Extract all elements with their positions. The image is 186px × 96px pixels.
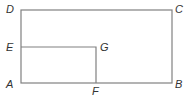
- label-b: B: [175, 78, 182, 90]
- label-e: E: [6, 41, 14, 53]
- label-a: A: [5, 78, 13, 90]
- label-g: G: [100, 41, 109, 53]
- label-f: F: [92, 85, 100, 96]
- rectangles-diagram: D E A C B G F: [0, 0, 186, 96]
- rectangle-aegf: [21, 47, 96, 83]
- geometry-figure: D E A C B G F: [0, 0, 186, 96]
- label-d: D: [6, 3, 14, 15]
- label-c: C: [175, 3, 183, 15]
